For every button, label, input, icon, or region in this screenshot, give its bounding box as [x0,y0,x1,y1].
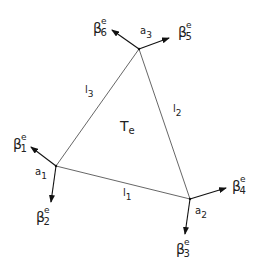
vector-beta6-arrow [112,30,139,49]
vertex-a1-point [55,165,57,167]
vector-beta3-label: βe3 [176,237,190,259]
vector-beta4-label: βe4 [232,174,246,196]
triangle-label: Te [119,118,135,136]
edge-l3 [56,49,139,166]
triangle-element-diagram: Te a1 a2 a3 l1 l2 l3 βe1 βe2 βe3 βe4 βe5… [0,0,259,275]
vertex-a1-label: a1 [35,166,47,181]
edge-l1-label: l1 [123,187,132,202]
vector-beta5-arrow [139,38,169,49]
edge-l2-label: l2 [173,103,182,118]
vertex-a2-point [189,198,191,200]
vertex-a3-label: a3 [140,25,152,40]
edge-l3-label: l3 [85,84,94,99]
vertex-a2-label: a2 [195,205,207,220]
vector-beta5-label: βe5 [178,20,192,42]
vector-beta1-label: βe1 [13,132,27,154]
vertex-a3-point [138,48,140,50]
vector-beta3-arrow [185,199,190,234]
vector-beta6-label: βe6 [93,16,107,38]
vector-beta2-label: βe2 [36,205,50,227]
vector-beta1-arrow [31,147,56,166]
vector-beta2-arrow [51,166,56,202]
edge-l2 [139,49,190,199]
vector-beta4-arrow [190,188,226,199]
